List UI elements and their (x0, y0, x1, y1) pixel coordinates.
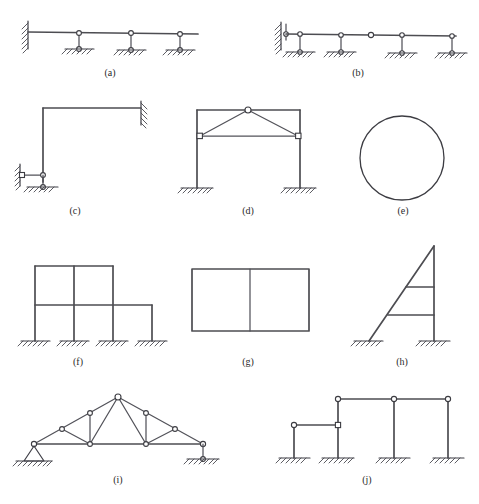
panel-caption-e: (e) (397, 205, 408, 217)
panel-i-joint-upper-right (173, 427, 178, 432)
panel-e: (e) (360, 116, 444, 217)
panel-h-base-left (351, 341, 383, 346)
panel-caption-b: (b) (352, 67, 364, 79)
panel-b-link-2 (324, 33, 356, 57)
panel-h: (h) (351, 246, 450, 368)
panel-i-joint-top-left (88, 411, 93, 416)
panel-caption-h: (h) (396, 356, 408, 368)
panel-i-web-diagonal-left-upper (90, 397, 118, 444)
panel-g: (g) (192, 269, 309, 368)
panel-c-fixed-wall (141, 101, 147, 128)
panel-i-web-diagonal-left-lower (62, 429, 90, 444)
panel-a-fixed-wall (22, 21, 28, 53)
panel-a: (a) (22, 21, 198, 79)
panel-j-hinge-1 (291, 422, 296, 427)
panel-c-horizontal-link (20, 173, 46, 178)
panel-c: (c) (15, 101, 147, 217)
figure-canvas: (a) (0, 0, 479, 504)
panel-i-joint-top-right (144, 411, 149, 416)
panel-b: (b) (275, 22, 467, 79)
panel-i-link-support (184, 444, 219, 464)
panel-j-hinge-5 (445, 396, 450, 401)
panel-i-web-diagonal-right-lower (146, 429, 175, 444)
panel-a-link-1 (62, 31, 94, 54)
panel-d-diagonal-left (200, 110, 248, 136)
panel-caption-a: (a) (104, 67, 115, 79)
panel-e-ring (360, 116, 444, 200)
panel-caption-j: (j) (362, 474, 371, 486)
panel-caption-f: (f) (73, 356, 83, 368)
structural-figure-sheet: (a) (0, 0, 479, 504)
panel-d-base-left (178, 188, 213, 193)
panel-d-diagonal-right (248, 110, 298, 136)
panel-j-base-3 (376, 458, 410, 463)
panel-j-hinge-3 (335, 396, 340, 401)
panel-d-hinge-left (197, 133, 202, 138)
panel-j-hinge-2 (335, 422, 340, 427)
panel-f-base-3 (96, 341, 128, 346)
panel-i-joint-bottom-left (88, 442, 93, 447)
panel-j: (j) (276, 396, 464, 486)
panel-b-internal-hinge (368, 32, 373, 37)
panel-b-link-4 (435, 34, 467, 58)
panel-j-base-1 (276, 458, 310, 463)
panel-f-base-1 (18, 341, 50, 346)
panel-f-base-2 (57, 341, 89, 346)
panel-a-link-3 (163, 32, 195, 55)
panel-h-inclined-member (369, 246, 434, 341)
panel-f-base-4 (135, 341, 167, 346)
panel-i-joint-upper-left (60, 427, 65, 432)
panel-b-fixed-wall (275, 22, 281, 54)
panel-j-base-2 (319, 458, 354, 463)
panel-caption-c: (c) (69, 205, 80, 217)
panel-a-beam (28, 32, 198, 34)
panel-d-apex-hinge (245, 107, 251, 113)
panel-d-base-right (281, 188, 316, 193)
panel-i-joint-bottom-right (144, 442, 149, 447)
panel-caption-d: (d) (242, 205, 254, 217)
panel-d-hinge-right (296, 133, 301, 138)
panel-i-pin-support (13, 446, 52, 466)
panel-a-link-2 (114, 31, 146, 55)
panel-j-hinge-4 (391, 396, 396, 401)
panel-h-base-right (416, 341, 450, 346)
panel-caption-g: (g) (242, 356, 254, 368)
panel-i: (i) (13, 394, 219, 486)
panel-f: (f) (18, 266, 167, 368)
panel-d: (d) (178, 107, 316, 217)
panel-j-base-4 (430, 458, 464, 463)
panel-i-joint-apex (115, 394, 121, 400)
panel-caption-i: (i) (113, 474, 122, 486)
panel-c-vertical-link (24, 175, 58, 192)
panel-b-link-3 (385, 33, 417, 58)
